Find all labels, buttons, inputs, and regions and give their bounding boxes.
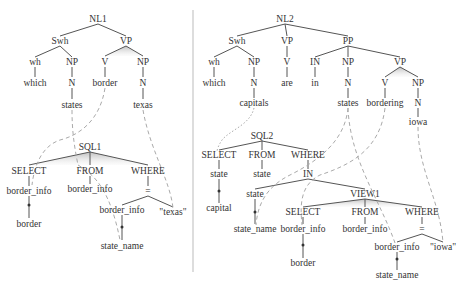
node-label: SELECT: [12, 166, 47, 176]
node-label: N: [345, 78, 352, 88]
node-label: border_info: [343, 224, 388, 234]
node-label: =: [419, 224, 424, 234]
node-label: V: [382, 78, 389, 88]
node-label: border: [291, 258, 317, 268]
node-label: texas: [133, 100, 153, 110]
node-label: "iowa": [430, 242, 456, 252]
node-label: state: [253, 169, 270, 179]
node-label: VP: [120, 36, 132, 46]
node-label: which: [23, 78, 46, 88]
figure-canvas: NL1 Swh VP wh NP V NP which N border N s…: [0, 0, 475, 291]
node-label: WHERE: [131, 166, 165, 176]
node-label: state_name: [101, 241, 144, 251]
parse-tree-diagram: NL1 Swh VP wh NP V NP which N border N s…: [0, 0, 475, 291]
node-label: N: [140, 78, 147, 88]
node-label: border_info: [100, 205, 145, 215]
node-label: NP: [248, 57, 260, 67]
node-label: wh: [208, 57, 220, 67]
node-label: border_info: [68, 184, 113, 194]
node-label: SELECT: [286, 207, 321, 217]
node-label: N: [415, 98, 422, 108]
node-label: NP: [66, 57, 78, 67]
node-label: Swh: [52, 36, 69, 46]
node-label: states: [337, 98, 358, 108]
node-label: SQL2: [251, 131, 274, 141]
node-label: "texas": [159, 207, 186, 217]
node-label: NL2: [276, 14, 294, 24]
node-label: border_info: [7, 186, 52, 196]
node-label: wh: [29, 57, 41, 67]
node-label: FROM: [352, 207, 379, 217]
node-label: NP: [137, 57, 149, 67]
node-label: NL1: [89, 14, 107, 24]
node-label: FROM: [249, 150, 276, 160]
node-label: WHERE: [405, 207, 439, 217]
node-label: are: [281, 78, 293, 88]
node-label: IN: [310, 57, 320, 67]
node-label: state_name: [376, 270, 419, 280]
node-label: =: [145, 186, 150, 196]
node-label: VP: [394, 57, 406, 67]
node-label: capital: [206, 203, 232, 213]
node-label: PP: [343, 36, 354, 46]
node-label: states: [61, 100, 82, 110]
node-label: IN: [303, 169, 313, 179]
node-label: SQL1: [79, 142, 102, 152]
node-label: iowa: [409, 117, 428, 127]
node-label: V: [284, 57, 291, 67]
node-label: border_info: [375, 242, 420, 252]
node-label: WHERE: [291, 150, 325, 160]
left-tree-labels: NL1 Swh VP wh NP V NP which N border N s…: [7, 14, 187, 251]
node-label: VP: [281, 36, 293, 46]
node-label: border: [93, 78, 119, 88]
node-label: N: [251, 78, 258, 88]
node-label: bordering: [367, 98, 404, 108]
node-label: capitals: [239, 98, 268, 108]
node-label: Swh: [229, 36, 246, 46]
node-label: NP: [342, 57, 354, 67]
node-label: NP: [412, 78, 424, 88]
node-label: V: [102, 57, 109, 67]
node-label: SELECT: [202, 150, 237, 160]
node-label: VIEW1: [350, 189, 380, 199]
node-label: state_name: [234, 224, 277, 234]
node-label: state: [210, 169, 227, 179]
node-label: which: [202, 78, 225, 88]
node-label: N: [69, 78, 76, 88]
node-label: state: [246, 189, 263, 199]
right-tree-labels: NL2 Swh VP PP wh NP V IN NP VP which N a…: [202, 14, 457, 280]
node-label: FROM: [77, 166, 104, 176]
node-label: border_info: [281, 224, 326, 234]
node-label: border: [17, 219, 43, 229]
node-label: in: [311, 78, 319, 88]
